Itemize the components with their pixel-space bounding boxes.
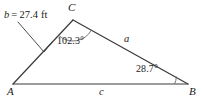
side-b-equals: =: [11, 9, 17, 20]
side-label-c: c: [99, 87, 104, 98]
vertex-label-b: B: [189, 86, 196, 97]
side-label-a: a: [124, 34, 129, 45]
side-b-value: 27.4 ft: [19, 9, 47, 20]
angle-label-c: 102.3°: [57, 36, 84, 46]
triangle-figure: b=27.4 ft C A B 102.3° 28.7° a c: [0, 0, 202, 104]
vertex-label-a: A: [7, 86, 14, 97]
side-b-measure-label: b=27.4 ft: [4, 10, 48, 21]
side-b-variable: b: [4, 9, 9, 20]
side-b-line: [13, 20, 73, 84]
angle-label-b: 28.7°: [136, 64, 158, 74]
vertex-label-c: C: [68, 2, 75, 13]
side-a-line: [73, 20, 188, 84]
